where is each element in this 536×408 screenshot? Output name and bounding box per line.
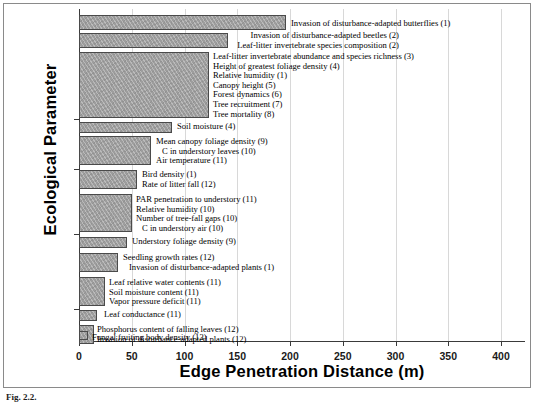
bar (79, 331, 88, 340)
plot-area: 050100150200250300350400 Invasion of dis… (79, 9, 525, 342)
gridline (448, 9, 449, 342)
bar-label: Leaf-litter invertebrate species composi… (79, 41, 399, 51)
bar-label-group: Invasion of disturbance-adapted butterfl… (291, 19, 450, 29)
bar-label: Air temperature (11) (156, 156, 268, 166)
bar (79, 136, 151, 165)
x-tick-label: 0 (76, 350, 82, 362)
caption-label: Fig. 2.2. (6, 392, 37, 402)
gridline (501, 9, 502, 342)
bar-label-group: Fungal fruiting body density (13) (92, 333, 207, 343)
bar (79, 170, 137, 189)
bar (79, 253, 118, 272)
bar-label-group: Bird density (1)Rate of litter fall (12) (142, 170, 216, 189)
bar-label-group: Leaf-litter invertebrate abundance and s… (213, 52, 414, 119)
bar-label: Invasion of disturbance-adapted plants (… (123, 263, 274, 273)
bar-label: Tree mortality (8) (213, 110, 414, 120)
bar (79, 15, 286, 30)
bar (79, 194, 132, 232)
bar (79, 52, 209, 118)
bar-label-group: Leaf relative water contents (11)Soil mo… (109, 278, 221, 307)
bar-label-group: Understory foliage density (9) (132, 237, 236, 247)
figure-caption: Fig. 2.2. (6, 392, 530, 406)
bar (79, 237, 127, 248)
bar-label-group: PAR penetration to understory (11)Relati… (136, 195, 257, 233)
bar-label-group: Seedling growth rates (12)Invasion of di… (123, 253, 274, 272)
y-tick-mark (74, 234, 79, 235)
x-tick-label: 150 (228, 350, 246, 362)
bar-label: Understory foliage density (9) (132, 237, 236, 247)
x-tick-label: 350 (439, 350, 457, 362)
bar-label: Leaf conductance (11) (104, 310, 181, 320)
bar-label: Vapor pressure deficit (11) (109, 297, 221, 307)
x-tick-mark (290, 342, 291, 346)
x-tick-mark (343, 342, 344, 346)
x-tick-mark (448, 342, 449, 346)
bar-label-group: Leaf conductance (11) (104, 310, 181, 320)
y-axis-title: Ecological Parameter (41, 20, 60, 280)
x-axis-title: Edge Penetration Distance (m) (79, 362, 525, 381)
figure-frame: Ecological Parameter 0501001502002503003… (3, 3, 531, 388)
x-tick-mark (396, 342, 397, 346)
x-tick-label: 300 (387, 350, 405, 362)
bar (79, 277, 105, 306)
x-tick-label: 100 (176, 350, 194, 362)
bar (79, 122, 172, 133)
bar-label: C in understory air (10) (136, 224, 257, 234)
x-tick-label: 400 (492, 350, 510, 362)
x-tick-label: 50 (126, 350, 138, 362)
y-tick-mark (74, 119, 79, 120)
bar (79, 310, 97, 321)
bar-label: Fungal fruiting body density (13) (92, 333, 207, 343)
bar-label-group: Soil moisture (4) (177, 122, 235, 132)
x-tick-mark (501, 342, 502, 346)
bar-label: Invasion of disturbance-adapted butterfl… (291, 19, 450, 29)
bar-label-group: Invasion of disturbance-adapted beetles … (79, 31, 399, 50)
bar-label-group: Mean canopy foliage density (9)C in unde… (156, 137, 268, 166)
bar-label: Soil moisture (4) (177, 122, 235, 132)
x-tick-label: 250 (334, 350, 352, 362)
x-tick-label: 200 (281, 350, 299, 362)
bar-label: Rate of litter fall (12) (142, 180, 216, 190)
